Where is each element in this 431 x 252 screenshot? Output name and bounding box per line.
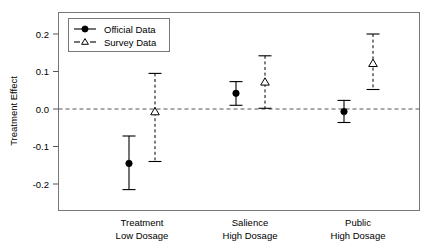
chart-legend: Official Data Survey Data bbox=[69, 19, 170, 52]
y-tick-label-2: 0.0 bbox=[36, 104, 49, 115]
x-label-group-1-line1: Treatment bbox=[121, 217, 164, 228]
x-label-group-2-line2: High Dosage bbox=[223, 230, 278, 241]
x-label-group-2-line1: Salience bbox=[232, 217, 268, 228]
survey-data-point bbox=[261, 78, 270, 85]
x-label-group-3-line2: High Dosage bbox=[331, 230, 386, 241]
survey-data-point bbox=[369, 59, 378, 66]
group-3-official-errorbar bbox=[338, 100, 351, 122]
y-axis-ticks bbox=[53, 34, 59, 184]
group-2-survey-errorbar bbox=[259, 56, 272, 109]
errorbar-chart: 0.2 0.1 0.0 -0.1 -0.2 Treatment Effect bbox=[0, 0, 431, 252]
official-data-point bbox=[341, 108, 347, 114]
y-tick-label-4: -0.2 bbox=[33, 179, 49, 190]
y-axis-title: Treatment Effect bbox=[8, 76, 19, 146]
legend-label-official: Official Data bbox=[104, 24, 156, 35]
y-tick-label-3: -0.1 bbox=[33, 141, 49, 152]
legend-marker-filled-circle-icon bbox=[82, 26, 88, 32]
official-data-point bbox=[233, 90, 239, 96]
x-label-group-3-line1: Public bbox=[345, 217, 371, 228]
y-tick-label-1: 0.1 bbox=[36, 66, 49, 77]
chart-figure: 0.2 0.1 0.0 -0.1 -0.2 Treatment Effect bbox=[0, 0, 431, 252]
group-2-official-errorbar bbox=[230, 82, 243, 106]
official-data-point bbox=[126, 160, 132, 166]
group-1-official-errorbar bbox=[123, 136, 136, 190]
group-3-survey-errorbar bbox=[367, 34, 380, 90]
x-axis-category-labels: Treatment Low Dosage Salience High Dosag… bbox=[116, 217, 386, 241]
x-label-group-1-line2: Low Dosage bbox=[116, 230, 169, 241]
legend-label-survey: Survey Data bbox=[104, 37, 157, 48]
group-1-survey-errorbar bbox=[149, 73, 162, 161]
y-tick-label-0: 0.2 bbox=[36, 29, 49, 40]
